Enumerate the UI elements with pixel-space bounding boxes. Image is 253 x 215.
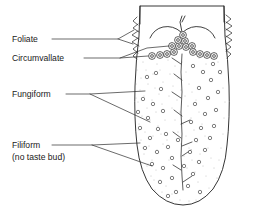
fungiform-papilla bbox=[201, 70, 204, 73]
fungiform-papilla bbox=[151, 102, 154, 105]
fungiform-papilla bbox=[174, 190, 177, 193]
leader-fungiform-1 bbox=[66, 91, 145, 94]
fungiform-papilla bbox=[166, 194, 169, 197]
circumvallate-papilla bbox=[190, 49, 197, 56]
foliate-fold-right-6 bbox=[226, 15, 231, 23]
circumvallate-papilla bbox=[164, 51, 171, 58]
circumvallate-papilla bbox=[157, 52, 164, 59]
fungiform-papilla bbox=[218, 70, 221, 73]
circumvallate-papilla bbox=[211, 53, 218, 60]
fungiform-papilla bbox=[189, 120, 192, 123]
fungiform-papilla bbox=[161, 166, 164, 169]
fungiform-papilla bbox=[141, 97, 144, 100]
fungiform-papilla bbox=[155, 150, 158, 153]
fungiform-papilla bbox=[198, 190, 201, 193]
foliate-fold-right-1 bbox=[226, 22, 232, 30]
fungiform-papilla bbox=[138, 126, 141, 129]
foliate-fold-left-6 bbox=[133, 17, 138, 25]
leader-filiform-1 bbox=[52, 143, 140, 145]
foliate-fold-right-2 bbox=[226, 29, 232, 37]
label-fungiform: Fungiform bbox=[12, 89, 51, 99]
circumvallate-papilla bbox=[180, 32, 187, 39]
fungiform-papilla bbox=[164, 132, 167, 135]
fungiform-papilla bbox=[159, 87, 162, 90]
fungiform-papilla bbox=[191, 64, 194, 67]
fungiform-papilla bbox=[170, 176, 173, 179]
fungiform-papilla bbox=[194, 138, 197, 141]
fungiform-papilla bbox=[158, 180, 161, 183]
circumvallate-papilla bbox=[149, 53, 156, 60]
fungiform-papilla bbox=[199, 126, 202, 129]
fungiform-papilla bbox=[206, 96, 209, 99]
fungiform-papilla bbox=[148, 136, 151, 139]
fungiform-papilla bbox=[197, 86, 200, 89]
fungiform-papilla bbox=[150, 162, 153, 165]
fungiform-papilla bbox=[136, 110, 139, 113]
fungiform-papilla bbox=[193, 102, 196, 105]
fungiform-papilla bbox=[212, 124, 215, 127]
label-foliate: Foliate bbox=[12, 34, 38, 44]
fungiform-papilla bbox=[203, 148, 206, 151]
foliate-papillae-left bbox=[132, 17, 139, 59]
fungiform-papilla bbox=[216, 90, 219, 93]
fungiform-papilla bbox=[145, 75, 148, 78]
fungiform-papilla bbox=[211, 62, 214, 65]
fungiform-papilla bbox=[154, 71, 157, 74]
fungiform-papilla bbox=[146, 116, 149, 119]
fungiform-papilla bbox=[214, 108, 217, 111]
label-filiform: Filiform bbox=[12, 140, 40, 150]
fungiform-papilla bbox=[186, 184, 189, 187]
circumvallate-papilla bbox=[169, 43, 176, 50]
leader-foliate-1 bbox=[52, 30, 134, 39]
fungiform-papilla bbox=[197, 160, 200, 163]
fungiform-papilla bbox=[161, 109, 164, 112]
foliate-fold-right-3 bbox=[226, 36, 232, 44]
label-filiform-sub: (no taste bud) bbox=[12, 152, 65, 162]
fungiform-papilla bbox=[176, 138, 179, 141]
leader-foliate-2 bbox=[118, 39, 133, 44]
fungiform-papilla bbox=[191, 172, 194, 175]
diagram-canvas: Foliate Circumvallate Fungiform Filiform… bbox=[0, 0, 253, 215]
circumvallate-papilla bbox=[204, 52, 211, 59]
fungiform-papilla bbox=[156, 127, 159, 130]
fungiform-papilla bbox=[166, 145, 169, 148]
circumvallate-papilla bbox=[197, 51, 204, 58]
fungiform-papilla bbox=[208, 136, 211, 139]
fungiform-papilla bbox=[143, 146, 146, 149]
fungiform-papilla bbox=[170, 156, 173, 159]
label-circumvallate: Circumvallate bbox=[12, 53, 64, 63]
fungiform-papilla bbox=[203, 112, 206, 115]
labels-group: Foliate Circumvallate Fungiform Filiform… bbox=[12, 34, 65, 162]
fungiform-papilla bbox=[188, 150, 191, 153]
fungiform-papilla bbox=[182, 164, 185, 167]
fungiform-papilla bbox=[209, 78, 212, 81]
tongue-papillae-diagram: Foliate Circumvallate Fungiform Filiform… bbox=[0, 0, 253, 215]
